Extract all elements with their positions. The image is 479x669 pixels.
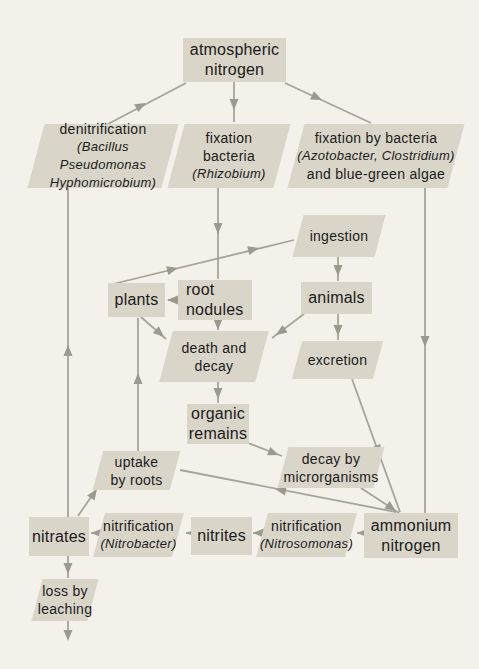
node-nitrification-nitrobacter: nitrification (Nitrobacter) bbox=[99, 513, 178, 557]
node-label: (Azotobacter, Clostridium) bbox=[297, 147, 454, 165]
edge-nitrates-denitrification bbox=[64, 188, 73, 517]
edge-root-nodules-plants bbox=[167, 296, 178, 305]
node-label: nitrification bbox=[103, 517, 174, 535]
edge-organic-decay-by bbox=[248, 443, 282, 459]
edge-denitrification-atmospheric bbox=[108, 83, 186, 124]
node-label: by roots bbox=[110, 471, 162, 489]
edge-animals-excretion bbox=[334, 314, 343, 340]
node-atmospheric-nitrogen: atmospheric nitrogen bbox=[183, 38, 286, 82]
node-nitrites: nitrites bbox=[191, 517, 252, 555]
node-label: nodules bbox=[186, 300, 243, 320]
node-label: microrganisms bbox=[284, 468, 379, 486]
node-label: organic bbox=[191, 404, 245, 424]
node-label: atmospheric bbox=[190, 40, 279, 60]
node-label: remains bbox=[189, 424, 247, 444]
node-label: (Bacillus Pseudomonas bbox=[36, 138, 170, 174]
node-label: root bbox=[186, 280, 214, 300]
node-label: fixation bbox=[206, 129, 253, 147]
node-label: (Rhizobium) bbox=[192, 165, 265, 183]
node-nitrification-nitrosomonas: nitrification (Nitrosomonas) bbox=[262, 513, 351, 557]
node-label: leaching bbox=[38, 600, 93, 618]
node-label: excretion bbox=[308, 351, 368, 369]
edge-loss-leaching-out bbox=[64, 621, 73, 641]
node-uptake-by-roots: uptake by roots bbox=[98, 451, 175, 490]
node-label: decay by bbox=[302, 450, 360, 468]
node-decay-by-microrganisms: decay by microrganisms bbox=[283, 447, 379, 488]
nitrogen-cycle-diagram: atmospheric nitrogen denitrification (Ba… bbox=[0, 0, 479, 669]
edge-plants-death-decay bbox=[141, 317, 167, 340]
edge-ingestion-animals bbox=[334, 257, 343, 281]
node-label: and blue-green algae bbox=[307, 165, 445, 183]
node-root-nodules: root nodules bbox=[178, 280, 252, 320]
node-label: death and bbox=[182, 339, 247, 357]
edge-excretion-ammonium bbox=[352, 379, 400, 512]
node-label: decay bbox=[195, 357, 234, 375]
edge-root-nodules-death-decay bbox=[214, 319, 223, 330]
node-label: plants bbox=[115, 290, 159, 310]
edge-fixation-bacteria-root-nodules bbox=[214, 188, 223, 279]
node-label: bacteria bbox=[203, 147, 255, 165]
node-label: nitrogen bbox=[205, 60, 264, 80]
edge-nitrates-loss-leaching bbox=[64, 556, 73, 578]
edge-plants-ingestion bbox=[113, 240, 294, 284]
node-label: uptake bbox=[115, 453, 159, 471]
node-ammonium-nitrogen: ammonium nitrogen bbox=[364, 513, 458, 558]
edge-atmospheric-fixation-bacteria bbox=[230, 82, 239, 122]
edge-death-decay-organic bbox=[214, 382, 223, 403]
node-label: animals bbox=[308, 288, 365, 308]
node-death-and-decay: death and decay bbox=[166, 331, 262, 382]
node-organic-remains: organic remains bbox=[187, 404, 249, 444]
edge-fixation-by-bacteria-ammonium bbox=[421, 188, 430, 513]
node-label: (Nitrosomonas) bbox=[260, 535, 353, 553]
node-plants: plants bbox=[108, 283, 165, 317]
edge-animals-death-decay bbox=[272, 314, 304, 339]
node-label: (Nitrobacter) bbox=[100, 535, 176, 553]
node-label: nitrates bbox=[32, 527, 86, 547]
node-fixation-bacteria: fixation bacteria (Rhizobium) bbox=[176, 124, 282, 188]
node-loss-by-leaching: loss by leaching bbox=[37, 579, 93, 621]
node-fixation-by-bacteria: fixation by bacteria (Azotobacter, Clost… bbox=[296, 124, 456, 188]
edge-uptake-plants bbox=[134, 318, 143, 451]
node-label: ammonium bbox=[371, 516, 452, 536]
edge-atmospheric-fixation-by-bacteria bbox=[285, 83, 371, 123]
node-label: Hyphomicrobium) bbox=[50, 174, 156, 192]
node-label: ingestion bbox=[310, 227, 369, 245]
node-nitrates: nitrates bbox=[29, 517, 89, 556]
node-excretion: excretion bbox=[297, 341, 378, 379]
node-label: loss by bbox=[42, 582, 88, 600]
node-denitrification: denitrification (Bacillus Pseudomonas Hy… bbox=[36, 124, 170, 188]
node-ingestion: ingestion bbox=[298, 215, 380, 257]
node-animals: animals bbox=[301, 282, 372, 314]
node-label: fixation by bacteria bbox=[315, 129, 438, 147]
node-label: nitrogen bbox=[381, 536, 440, 556]
node-label: nitrites bbox=[197, 526, 246, 546]
node-label: nitrification bbox=[271, 517, 342, 535]
node-label: denitrification bbox=[60, 120, 147, 138]
